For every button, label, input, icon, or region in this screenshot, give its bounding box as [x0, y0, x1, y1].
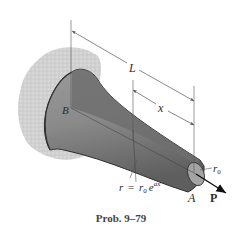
label-B: B — [62, 104, 69, 116]
formula: r = r0eax — [119, 180, 161, 195]
tapered-bar — [44, 69, 204, 192]
label-r0: r0 — [213, 162, 221, 176]
figure-caption: Prob. 9–79 — [0, 212, 242, 224]
tapered-bar-diagram: L x B r = r0eax r0 A P — [0, 0, 242, 232]
label-L: L — [128, 61, 136, 75]
dimension-x-right — [168, 111, 194, 125]
label-A: A — [187, 191, 196, 205]
dimension-x-left — [133, 90, 156, 104]
label-x: x — [157, 101, 164, 115]
label-P: P — [210, 191, 217, 205]
dimension-L-right — [139, 70, 194, 101]
